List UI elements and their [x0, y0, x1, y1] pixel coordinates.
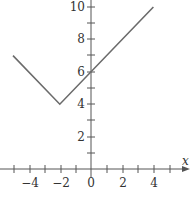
x-tick-label: −4: [21, 176, 39, 190]
x-tick-label: 4: [150, 176, 158, 190]
x-tick-label: 2: [119, 176, 127, 190]
y-tick-label: 8: [77, 32, 85, 46]
x-axis-label: x: [182, 154, 189, 168]
y-tick-label: 2: [77, 130, 85, 144]
x-tick-label: 0: [87, 176, 95, 190]
function-graph-line: [13, 7, 153, 104]
y-tick-label: 4: [77, 97, 85, 111]
chart: x −4 −2 0 2 4 2 4 6 8 10: [0, 0, 191, 198]
y-tick-label: 10: [70, 0, 85, 14]
y-tick-label: 6: [77, 65, 85, 79]
x-tick-label: −2: [52, 176, 70, 190]
